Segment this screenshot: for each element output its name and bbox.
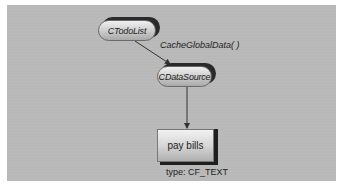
node-paybills-label: pay bills	[157, 129, 214, 162]
type-annotation: type: CF_TEXT	[166, 167, 228, 177]
node-cdatasource-label: CDataSource	[157, 66, 212, 87]
node-ctodolist-label: CTodoList	[98, 20, 156, 41]
edge-label-cacheglobaldata: CacheGlobalData( )	[160, 40, 240, 50]
